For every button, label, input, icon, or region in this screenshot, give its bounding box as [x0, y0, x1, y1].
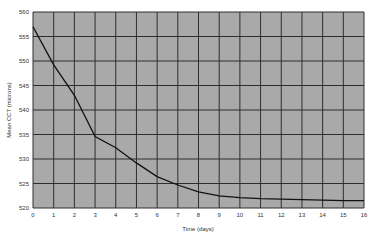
x-tick-label: 0 [31, 212, 35, 218]
y-axis-ticks: 520525530535540545550555560 [19, 9, 30, 211]
x-tick-label: 8 [197, 212, 201, 218]
y-tick-label: 540 [19, 107, 30, 113]
x-tick-label: 12 [278, 212, 285, 218]
x-axis-label: Time (days) [182, 226, 213, 232]
x-tick-label: 6 [155, 212, 159, 218]
x-tick-label: 14 [319, 212, 326, 218]
x-tick-label: 11 [257, 212, 264, 218]
y-tick-label: 530 [19, 156, 30, 162]
y-tick-label: 535 [19, 132, 30, 138]
x-axis-ticks: 012345678910111213141516 [31, 212, 368, 218]
x-tick-label: 2 [73, 212, 77, 218]
y-axis-label: Mean CCT (microns) [6, 82, 12, 138]
line-chart: 520525530535540545550555560 012345678910… [0, 0, 375, 237]
y-tick-label: 550 [19, 58, 30, 64]
x-tick-label: 16 [361, 212, 368, 218]
x-tick-label: 13 [299, 212, 306, 218]
y-tick-label: 520 [19, 205, 30, 211]
x-tick-label: 5 [135, 212, 139, 218]
y-tick-label: 545 [19, 83, 30, 89]
y-tick-label: 525 [19, 181, 30, 187]
y-tick-label: 560 [19, 9, 30, 15]
x-tick-label: 9 [218, 212, 222, 218]
y-tick-label: 555 [19, 34, 30, 40]
x-tick-label: 1 [52, 212, 56, 218]
x-tick-label: 4 [114, 212, 118, 218]
x-tick-label: 10 [237, 212, 244, 218]
x-tick-label: 7 [176, 212, 180, 218]
x-tick-label: 15 [340, 212, 347, 218]
x-tick-label: 3 [93, 212, 97, 218]
